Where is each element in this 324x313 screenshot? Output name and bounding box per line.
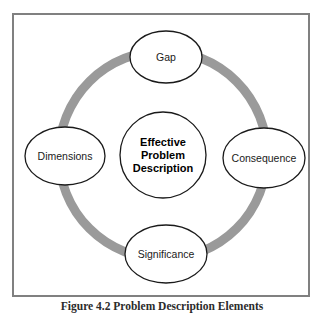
- node-gap[interactable]: Gap: [130, 31, 202, 83]
- node-consequence-label: Consequence: [232, 152, 297, 164]
- node-gap-label: Gap: [156, 51, 176, 63]
- node-dimensions[interactable]: Dimensions: [25, 127, 105, 185]
- problem-description-cycle-diagram: Gap Consequence Significance Dimensions …: [14, 15, 308, 295]
- center-node-label-line-3: Description: [133, 162, 194, 174]
- node-center-effective-problem-description[interactable]: Effective Problem Description: [120, 112, 206, 198]
- diagram-frame: Gap Consequence Significance Dimensions …: [12, 13, 310, 297]
- center-node-label-line-1: Effective: [140, 136, 186, 148]
- figure-container: Gap Consequence Significance Dimensions …: [0, 0, 324, 313]
- figure-caption: Figure 4.2 Problem Description Elements: [0, 300, 324, 313]
- node-dimensions-label: Dimensions: [38, 150, 93, 162]
- center-node-label-line-2: Problem: [141, 149, 185, 161]
- node-consequence[interactable]: Consequence: [223, 128, 305, 188]
- node-significance[interactable]: Significance: [125, 225, 207, 283]
- node-significance-label: Significance: [138, 248, 195, 260]
